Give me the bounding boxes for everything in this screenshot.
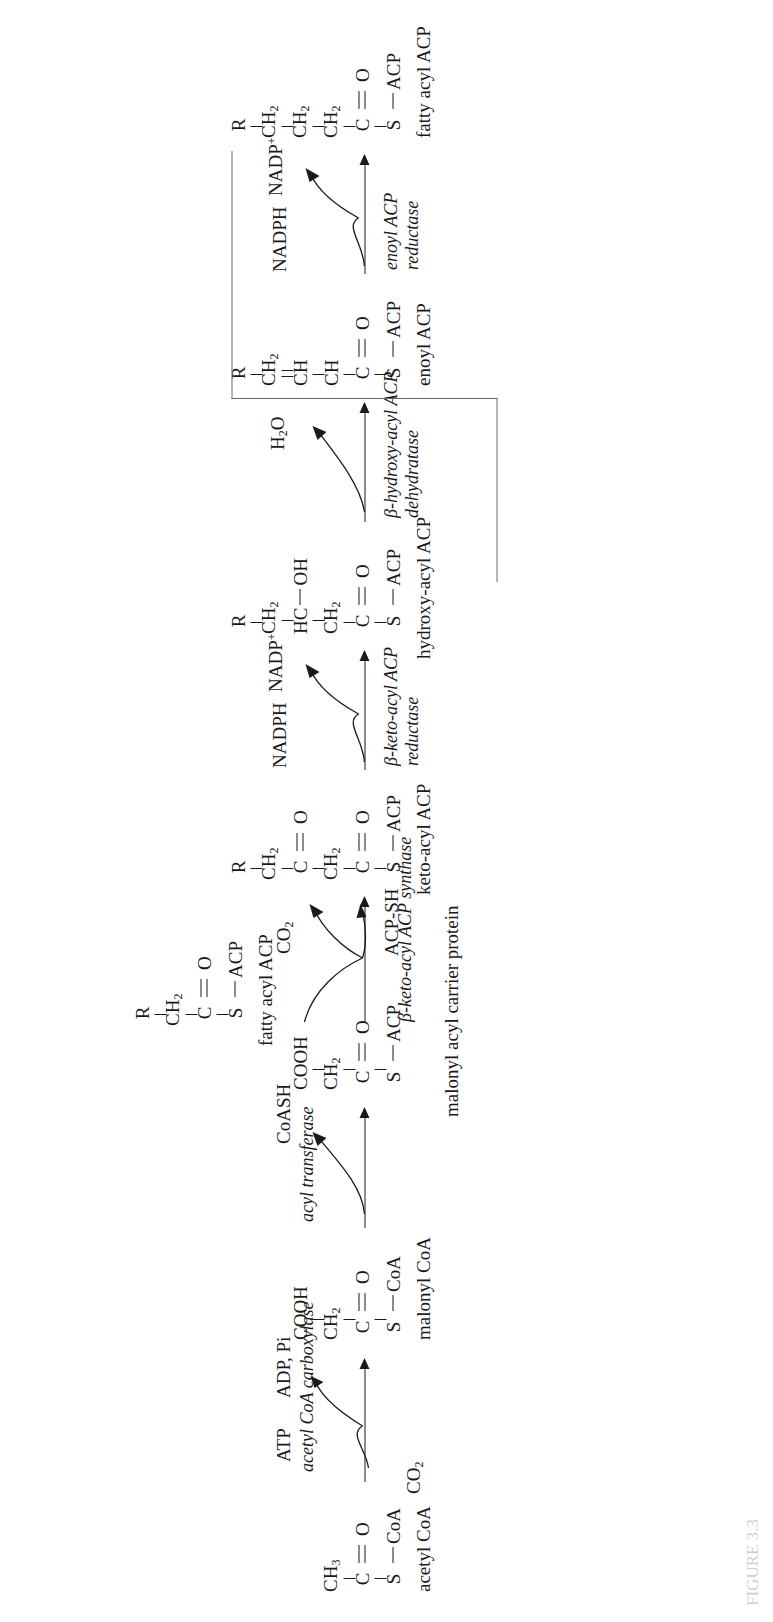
group-ACP: ACP — [383, 549, 402, 586]
atom-row: CH2 — [315, 848, 346, 880]
double-bond — [358, 91, 365, 109]
vertical-bond — [343, 868, 355, 869]
enzyme-line-1: enoyl ACP — [380, 193, 401, 270]
group-ACP: ACP — [225, 941, 244, 978]
double-bond — [358, 1545, 365, 1563]
single-bond — [392, 1045, 393, 1061]
vertical-bond — [343, 1069, 355, 1070]
vertical-bond — [374, 1578, 386, 1579]
atom-row: CH2 — [253, 848, 284, 880]
vertical-bond — [343, 1578, 355, 1579]
cofactor-arc-5 — [300, 410, 370, 514]
enzyme-acyl-transferase: acyl transferase — [296, 1107, 317, 1222]
atom-CH3: CH3 — [320, 1560, 341, 1592]
atom-row: CH2 — [157, 994, 188, 1026]
vertical-bond — [281, 620, 293, 621]
group-ACP: ACP — [383, 301, 402, 338]
enzyme-line-2: dehydratase — [401, 372, 422, 518]
vertical-bond — [374, 868, 386, 869]
atom-S: S — [383, 854, 402, 880]
vertical-bond — [250, 126, 262, 127]
label-hydroxy-acyl-acp: hydroxy-acyl ACP — [412, 517, 434, 659]
atom-CH2: CH2 — [258, 106, 279, 138]
atom-R: R — [228, 112, 247, 138]
atom-row: CH2 — [253, 106, 284, 138]
single-bond — [392, 1295, 393, 1311]
group-OH: OH — [290, 558, 309, 585]
cofactor-co2-in: CO2 — [402, 1462, 426, 1494]
vertical-double-bond — [281, 370, 293, 377]
group-COOH: COOH — [290, 1036, 309, 1090]
molecule-enoyl-acp: R CH2 CH CH C O S ACP — [222, 301, 408, 386]
molecule-malonyl-coa: COOH CH2 C O S CoA — [284, 1256, 408, 1340]
atom-S: S — [225, 1000, 244, 1026]
vertical-bond — [250, 374, 262, 375]
atom-O: O — [352, 558, 371, 584]
cofactor-atp: ATP — [272, 1428, 294, 1462]
atom-C: C — [290, 854, 309, 880]
single-bond — [392, 93, 393, 109]
label-enoyl-acp: enoyl ACP — [412, 303, 434, 386]
atom-C: C — [352, 608, 371, 634]
atom-C: C — [352, 854, 371, 880]
enzyme-enoyl-acp-reductase: enoyl ACP reductase — [380, 193, 421, 270]
vertical-bond — [281, 126, 293, 127]
atom-row: COOH — [284, 1036, 315, 1090]
single-bond — [392, 341, 393, 357]
label-malonyl-coa: malonyl CoA — [412, 1237, 434, 1340]
vertical-bond — [312, 126, 324, 127]
atom-CH2: CH2 — [289, 106, 310, 138]
enzyme-line-1: β-keto-acyl ACP — [380, 647, 401, 766]
figure-page: CH3 C O S CoA acetyl CoA CO2 ATP — [0, 0, 773, 1622]
cofactor-nadp-plus-1: NADP+ — [264, 633, 286, 692]
atom-row: CH3 — [315, 1560, 346, 1592]
atom-CH2: CH2 — [258, 602, 279, 634]
atom-C: C — [352, 1064, 371, 1090]
label-fatty-acyl-acp-out: fatty acyl ACP — [412, 26, 434, 138]
atom-O: O — [352, 1516, 371, 1542]
atom-C: C — [352, 1566, 371, 1592]
molecule-hydroxy-acyl-acp: R CH2 HC OH CH2 C O S ACP — [222, 549, 408, 634]
atom-row: C O — [346, 1264, 377, 1340]
vertical-bond — [281, 868, 293, 869]
vertical-bond — [312, 868, 324, 869]
vertical-bond — [185, 1014, 197, 1015]
single-bond — [299, 589, 300, 605]
fatty-acid-synthesis-diagram: CH3 C O S CoA acetyl CoA CO2 ATP — [0, 0, 773, 1622]
cofactor-arc-6 — [296, 160, 370, 268]
atom-S: S — [383, 112, 402, 138]
molecule-acetyl-coa: CH3 C O S CoA — [315, 1508, 408, 1592]
label-malonyl-acp: malonyl acyl carrier protein — [440, 905, 462, 1117]
loop-segment-horizontal-top — [231, 151, 232, 399]
atom-row: R — [222, 112, 253, 138]
atom-O: O — [352, 1264, 371, 1290]
reaction-arrow-head-2 — [359, 1107, 369, 1118]
double-bond — [358, 339, 365, 357]
double-bond — [296, 833, 303, 851]
atom-row: CH2 — [284, 106, 315, 138]
label-fatty-acyl-acp-in: fatty acyl ACP — [254, 934, 276, 1046]
atom-O: O — [290, 804, 309, 830]
enzyme-line-2: reductase — [401, 193, 422, 270]
atom-row: CH2 — [315, 602, 346, 634]
vertical-bond — [312, 374, 324, 375]
vertical-bond — [250, 622, 262, 623]
atom-row: CH2 — [253, 354, 284, 386]
atom-R: R — [228, 854, 247, 880]
cofactor-arc-3 — [300, 894, 370, 1024]
atom-S: S — [383, 1566, 402, 1592]
vertical-bond — [216, 1014, 228, 1015]
group-CoA: CoA — [383, 1508, 402, 1544]
cofactor-h2o: H2O — [266, 417, 290, 450]
atom-row: R — [222, 608, 253, 634]
double-bond — [358, 1293, 365, 1311]
cofactor-nadp-plus-2: NADP+ — [264, 137, 286, 196]
atom-S: S — [383, 608, 402, 634]
atom-row: COOH — [284, 1286, 315, 1340]
atom-row: R — [222, 854, 253, 880]
loop-segment-vertical — [231, 398, 497, 399]
atom-row: S CoA — [377, 1256, 408, 1340]
single-bond — [234, 981, 235, 997]
atom-C: C — [352, 112, 371, 138]
atom-CH2: CH2 — [320, 1308, 341, 1340]
